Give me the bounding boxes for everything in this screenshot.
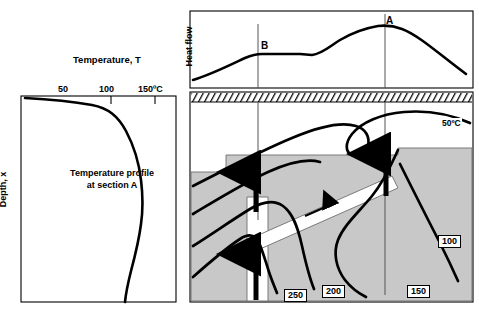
temperature-profile-panel [21,96,176,302]
isotherm-label-50C: 50ºC [441,118,462,128]
section-marker-label-B: B [261,41,268,51]
caption-line-2: at section A [87,180,138,190]
caption-line-1: Temperature profile [70,168,154,178]
geothermal-figure [0,0,479,321]
temperature-tick-label-150: 150ºC [138,84,163,94]
temperature-plot-frame [21,96,176,302]
depth-axis-label: Depth, x [0,172,8,208]
temperature-tick-label-100: 100 [99,84,114,94]
section-marker-label-A: A [386,16,393,26]
heat-flow-plot-frame [190,11,473,88]
isotherm-label-150: 150 [407,285,430,298]
heat-flow-axis-label: Heat flow [185,26,194,66]
geologic-section-panel [190,92,473,302]
temperature-panel-title: Temperature, T [73,55,141,65]
temperature-tick-label-50: 50 [58,84,68,94]
ground-surface-hatch [191,93,472,102]
temperature-profile-caption: Temperature profile at section A [57,167,167,191]
heat-flow-panel [190,11,473,88]
isotherm-label-200: 200 [322,285,345,298]
isotherm-label-250: 250 [284,289,307,302]
isotherm-label-100: 100 [438,235,461,248]
